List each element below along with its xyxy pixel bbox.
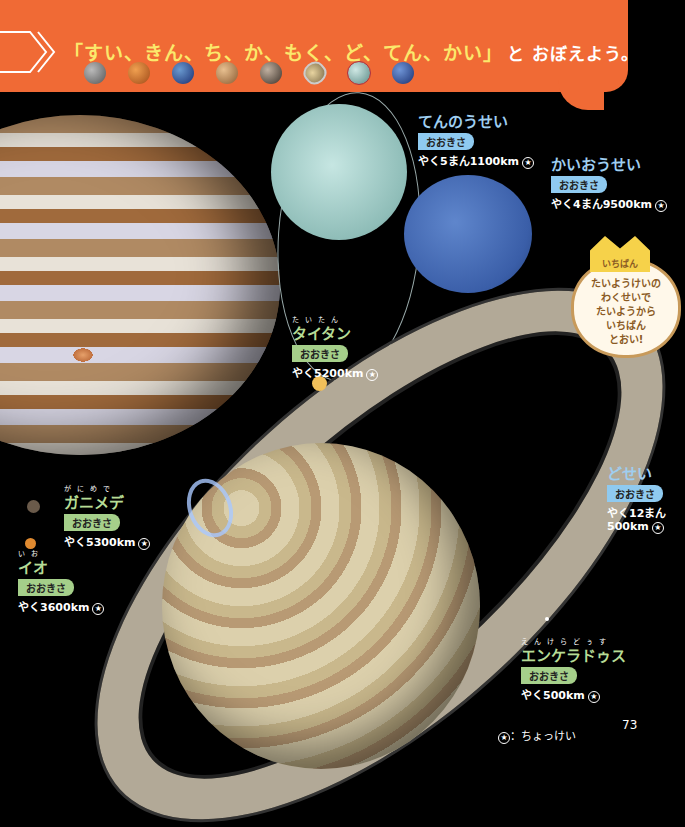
size-badge: おおきさ (18, 579, 74, 596)
saturn-size-line2: 500km★ (607, 520, 666, 534)
saturn-name: どせい (607, 462, 666, 483)
callout-line: たいようけいの (574, 277, 678, 291)
uranus-label: てんのうせい おおきさ やく5まん1100km★ (418, 110, 534, 169)
ganymede-name: ガニメデ (64, 491, 150, 512)
size-badge: おおきさ (607, 485, 663, 502)
diameter-star-icon: ★ (652, 522, 664, 534)
legend-text: ：ちょっけい (510, 730, 576, 743)
io-size: やく3600km★ (18, 598, 104, 615)
neptune-size: やく4まん9500km★ (551, 195, 667, 212)
mini-mercury-icon (84, 62, 106, 84)
mini-jupiter-icon (260, 62, 282, 84)
crown-label: いちばん (596, 257, 644, 270)
neptune-label: かいおうせい おおきさ やく4まん9500km★ (551, 153, 667, 212)
diameter-star-icon: ★ (588, 691, 600, 703)
titan-name: タイタン (292, 322, 378, 343)
diameter-star-icon: ★ (366, 369, 378, 381)
neptune-image (404, 175, 532, 293)
callout-line: わくせいで (574, 291, 678, 305)
diameter-star-icon: ★ (92, 603, 104, 615)
saturn-label: どせい おおきさ やく12まん 500km★ (607, 462, 666, 534)
legend: ★：ちょっけい (495, 727, 576, 744)
size-badge: おおきさ (64, 514, 120, 531)
titan-size: やく5200km★ (292, 364, 378, 381)
size-badge: おおきさ (418, 133, 474, 150)
enceladus-size: やく500km★ (521, 686, 626, 703)
saturn-size-line1: やく12まん (607, 504, 666, 520)
diameter-star-icon: ★ (498, 732, 510, 744)
io-label: いお イオ おおきさ やく3600km★ (18, 548, 104, 615)
mini-uranus-icon (348, 62, 370, 84)
callout-line: たいようから (574, 305, 678, 319)
ganymede-image (27, 500, 40, 513)
page-number: 73 (622, 718, 637, 732)
mini-mars-icon (216, 62, 238, 84)
mini-venus-icon (128, 62, 150, 84)
uranus-name: てんのうせい (418, 110, 534, 131)
diameter-star-icon: ★ (522, 157, 534, 169)
enceladus-label: えんけらどぅす エンケラドゥス おおきさ やく500km★ (521, 636, 626, 703)
jupiter-image (0, 115, 280, 455)
size-badge: おおきさ (521, 667, 577, 684)
diameter-star-icon: ★ (138, 538, 150, 550)
diameter-star-icon: ★ (655, 200, 667, 212)
mnemonic-tail: と おぼえよう。 (507, 44, 639, 64)
callout-line: いちばん (574, 319, 678, 333)
mini-saturn-icon (300, 58, 331, 89)
io-name: イオ (18, 556, 104, 577)
ganymede-label: がにめで ガニメデ おおきさ やく5300km★ (64, 483, 150, 550)
uranus-size: やく5まん1100km★ (418, 152, 534, 169)
callout-line: とおい! (574, 333, 678, 347)
neptune-name: かいおうせい (551, 153, 667, 174)
chevron-icon (0, 24, 58, 80)
mnemonic-text: 「すい、きん、ち、か、もく、ど、てん、かい」と おぼえよう。 (64, 38, 639, 65)
banner-tail (558, 80, 604, 110)
size-badge: おおきさ (292, 345, 348, 362)
uranus-image (271, 104, 407, 240)
mnemonic-phrase: 「すい、きん、ち、か、もく、ど、てん、かい」 (64, 42, 503, 64)
titan-label: たいたん タイタン おおきさ やく5200km★ (292, 314, 378, 381)
enceladus-name: エンケラドゥス (521, 644, 626, 665)
mini-earth-icon (172, 62, 194, 84)
size-badge: おおきさ (551, 176, 607, 193)
mini-planet-row (84, 62, 414, 84)
mini-neptune-icon (392, 62, 414, 84)
farthest-callout: たいようけいの わくせいで たいようから いちばん とおい! (571, 258, 681, 358)
enceladus-image (545, 617, 549, 621)
